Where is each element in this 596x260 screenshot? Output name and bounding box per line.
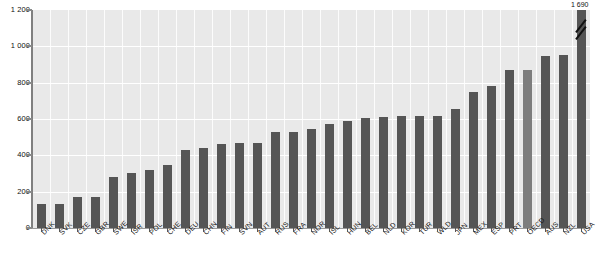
- bar-aut: [253, 143, 262, 228]
- x-axis-tick: [275, 228, 276, 232]
- x-axis-tick: [329, 228, 330, 232]
- x-axis-tick: [131, 228, 132, 232]
- y-axis-tick-labels: 02004006008001 0001 200: [0, 0, 30, 260]
- x-axis-tick: [95, 228, 96, 232]
- x-axis-tick: [383, 228, 384, 232]
- bar-tur: [415, 116, 424, 228]
- x-axis-tick: [239, 228, 240, 232]
- x-axis-tick: [149, 228, 150, 232]
- x-axis-tick: [401, 228, 402, 232]
- x-axis-tick: [59, 228, 60, 232]
- x-axis-tick: [545, 228, 546, 232]
- x-axis-tick: [365, 228, 366, 232]
- y-axis-tick: [26, 191, 32, 193]
- bar-value-label-usa: 1 690: [571, 1, 589, 8]
- x-axis-tick: [311, 228, 312, 232]
- bar-bel: [361, 118, 370, 228]
- y-axis-tick: [26, 227, 32, 229]
- bar-rus: [271, 132, 280, 228]
- bar-fra: [289, 132, 298, 228]
- y-axis-tick: [26, 9, 32, 11]
- x-axis-tick: [437, 228, 438, 232]
- bar-nor: [307, 129, 316, 228]
- x-axis-category-labels: DNKSVKCZEGBRSWEISRPOLCHEDEUCHNFINSVNAUTR…: [32, 231, 590, 260]
- bar-series: [32, 10, 590, 228]
- x-axis-tick: [581, 228, 582, 232]
- bar-gbr: [91, 197, 100, 228]
- x-axis-tick: [509, 228, 510, 232]
- x-axis-tick: [113, 228, 114, 232]
- bar-swe: [109, 177, 118, 228]
- bar-hun: [343, 121, 352, 228]
- x-axis-tick: [527, 228, 528, 232]
- y-axis-tick: [26, 154, 32, 156]
- x-axis-tick: [455, 228, 456, 232]
- x-axis-tick: [221, 228, 222, 232]
- x-axis-tick: [419, 228, 420, 232]
- x-axis-tick: [257, 228, 258, 232]
- bar-cze: [73, 197, 82, 228]
- x-axis-tick: [203, 228, 204, 232]
- bar-chn: [199, 148, 208, 228]
- bar-esp: [487, 86, 496, 228]
- bar-prt: [505, 70, 514, 228]
- bar-che: [163, 165, 172, 228]
- bar-pol: [145, 170, 154, 228]
- x-axis-tick: [293, 228, 294, 232]
- bar-dnk: [37, 204, 46, 228]
- y-axis-tick: [26, 118, 32, 120]
- bar-isl: [325, 124, 334, 228]
- x-axis-tick: [491, 228, 492, 232]
- bar-jpn: [451, 109, 460, 228]
- x-axis-tick: [563, 228, 564, 232]
- bar-svn: [235, 143, 244, 228]
- bar-nld: [379, 117, 388, 228]
- bar-nzl: [559, 55, 568, 228]
- bar-wld: [433, 116, 442, 228]
- x-axis-tick: [167, 228, 168, 232]
- bar-aus: [541, 56, 550, 228]
- bar-deu: [181, 150, 190, 228]
- bar-kor: [397, 116, 406, 228]
- bar-oecd: [523, 70, 532, 228]
- bar-mex: [469, 92, 478, 228]
- x-axis-tick: [473, 228, 474, 232]
- y-axis-tick: [26, 82, 32, 84]
- bar-isr: [127, 173, 136, 228]
- x-axis-tick: [347, 228, 348, 232]
- x-axis-tick: [77, 228, 78, 232]
- bar-usa: [577, 10, 586, 228]
- x-axis-tick: [41, 228, 42, 232]
- bar-fin: [217, 144, 226, 228]
- y-axis-tick: [26, 45, 32, 47]
- x-axis-tick: [185, 228, 186, 232]
